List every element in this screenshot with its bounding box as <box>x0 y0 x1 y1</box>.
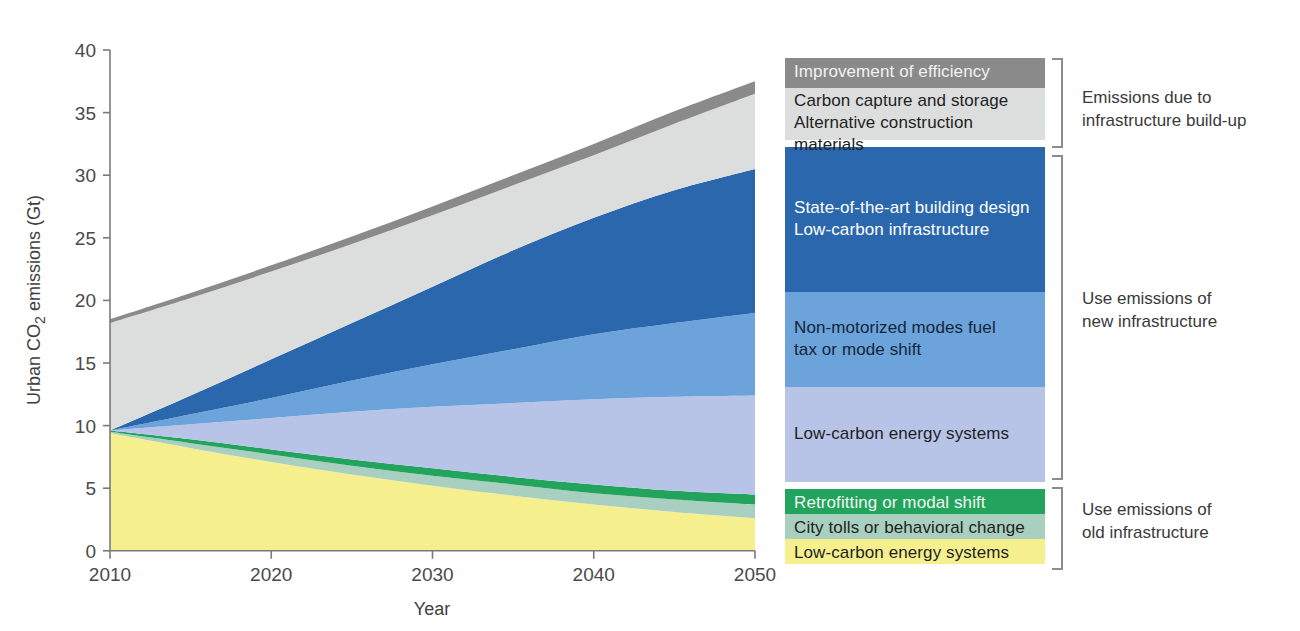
figure-root: 0510152025303540 20102020203020402050 Ur… <box>0 0 1300 631</box>
group-annotation-new: Use emissions of new infrastructure <box>1082 287 1217 333</box>
group-annotation-buildup: Emissions due to infrastructure build-up <box>1082 86 1246 132</box>
y-axis-title: Urban CO2 emissions (Gt) <box>24 195 48 405</box>
legend-group-old: Retrofitting or modal shiftCity tolls or… <box>785 489 1045 564</box>
legend-item[interactable]: Improvement of efficiency <box>785 58 1045 88</box>
stacked-area-chart: 0510152025303540 20102020203020402050 Ur… <box>0 0 790 631</box>
x-tick-label: 2020 <box>250 564 292 585</box>
y-tick-label: 30 <box>75 165 96 186</box>
y-tick-label: 0 <box>85 541 96 562</box>
legend-item-label: Improvement of efficiency <box>794 62 990 81</box>
x-tick-label: 2010 <box>89 564 131 585</box>
legend-group-new: State-of-the-art building design Low-car… <box>785 147 1045 482</box>
y-axis-ticks: 0510152025303540 <box>75 40 110 562</box>
group-annotation-old: Use emissions of old infrastructure <box>1082 498 1211 544</box>
legend: Improvement of efficiencyCarbon capture … <box>785 58 1045 564</box>
chart-plot-area: 0510152025303540 20102020203020402050 Ur… <box>0 0 790 631</box>
legend-item-label: State-of-the-art building design Low-car… <box>794 197 1030 241</box>
legend-item-label: City tolls or behavioral change <box>794 518 1025 537</box>
legend-item-label: Non-motorized modes fuel tax or mode shi… <box>794 317 996 361</box>
x-tick-label: 2050 <box>734 564 776 585</box>
y-tick-label: 25 <box>75 228 96 249</box>
x-axis-ticks: 20102020203020402050 <box>89 551 776 585</box>
legend-item[interactable]: Carbon capture and storage Alternative c… <box>785 88 1045 140</box>
legend-item[interactable]: Low-carbon energy systems <box>785 387 1045 482</box>
legend-item[interactable]: State-of-the-art building design Low-car… <box>785 147 1045 292</box>
x-tick-label: 2030 <box>411 564 453 585</box>
bracket-new <box>1052 155 1063 480</box>
x-axis-title: Year <box>414 599 450 619</box>
legend-item-label: Low-carbon energy systems <box>794 543 1009 562</box>
legend-item[interactable]: Retrofitting or modal shift <box>785 489 1045 514</box>
bracket-buildup <box>1052 58 1063 148</box>
legend-item[interactable]: Non-motorized modes fuel tax or mode shi… <box>785 292 1045 387</box>
bracket-old <box>1052 487 1063 570</box>
y-tick-label: 40 <box>75 40 96 61</box>
y-tick-label: 10 <box>75 416 96 437</box>
y-tick-label: 5 <box>85 478 96 499</box>
y-tick-label: 35 <box>75 103 96 124</box>
legend-item[interactable]: City tolls or behavioral change <box>785 514 1045 539</box>
area-series-group <box>110 81 755 551</box>
legend-group-buildup: Improvement of efficiencyCarbon capture … <box>785 58 1045 140</box>
legend-group-spacer <box>785 482 1045 489</box>
y-tick-label: 20 <box>75 290 96 311</box>
x-tick-label: 2040 <box>573 564 615 585</box>
y-tick-label: 15 <box>75 353 96 374</box>
legend-item[interactable]: Low-carbon energy systems <box>785 539 1045 564</box>
legend-item-label: Low-carbon energy systems <box>794 423 1009 445</box>
legend-item-label: Retrofitting or modal shift <box>794 493 986 512</box>
